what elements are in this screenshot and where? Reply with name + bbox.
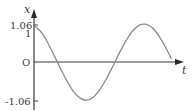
tick-label-neg-1-06: -1.06 [5, 96, 31, 107]
oscillation-chart [0, 0, 192, 111]
origin-label: O [22, 57, 30, 68]
y-axis-label: x [24, 4, 30, 15]
t-axis-label: t [182, 65, 186, 76]
y-axis-arrow-icon [31, 9, 37, 18]
tick-label-1: 1 [25, 28, 31, 39]
